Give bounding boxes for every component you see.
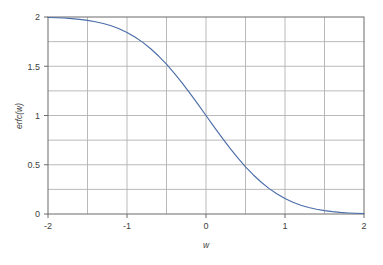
- chart-figure: -2-1012 00.511.52 w erfc(w): [0, 0, 383, 265]
- x-tick-label: -2: [44, 221, 52, 231]
- erfc-line-chart: -2-1012 00.511.52 w erfc(w): [0, 0, 383, 265]
- x-tick-label: 1: [282, 221, 287, 231]
- x-tick-label: 2: [361, 221, 366, 231]
- x-tick-label: 0: [203, 221, 208, 231]
- x-axis-title: w: [203, 240, 210, 250]
- y-tick-label: 0: [35, 209, 40, 219]
- y-tick-label: 0.5: [27, 160, 40, 170]
- y-axis-title: erfc(w): [14, 103, 24, 129]
- y-tick-label: 2: [35, 12, 40, 22]
- y-tick-label: 1.5: [27, 62, 40, 72]
- y-tick-label: 1: [35, 111, 40, 121]
- x-tick-label: -1: [123, 221, 131, 231]
